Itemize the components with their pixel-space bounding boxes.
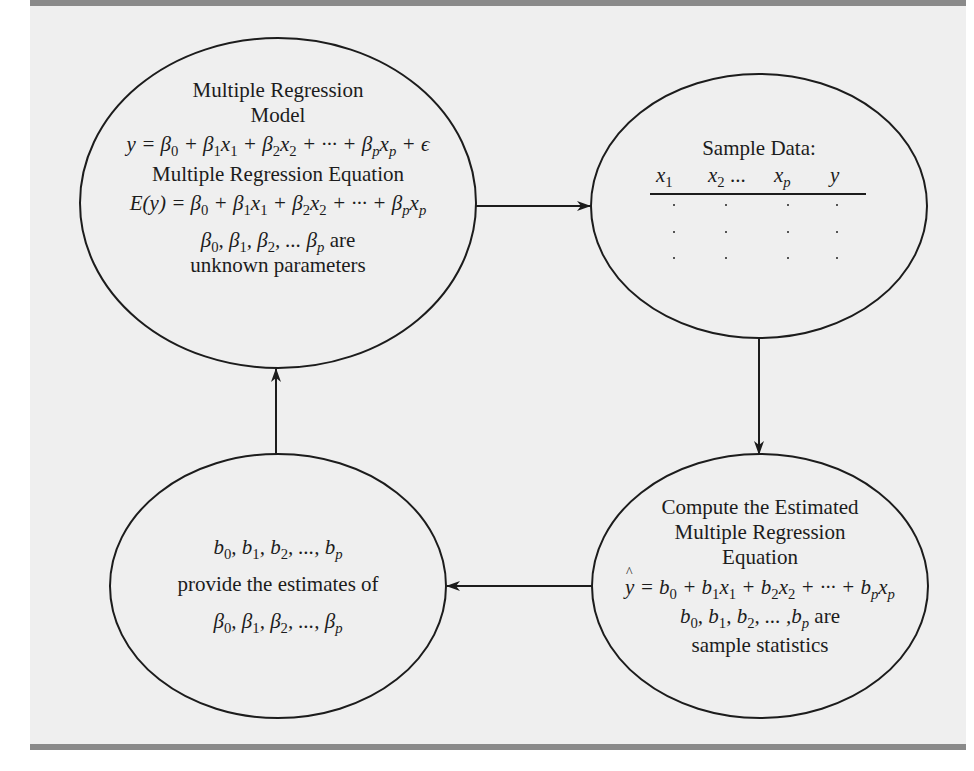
compute-title-line2: Multiple Regression bbox=[600, 520, 920, 545]
model-title-line2: Model bbox=[88, 103, 468, 128]
compute-title-line3: Equation bbox=[600, 545, 920, 570]
estimates-desc: provide the estimates of bbox=[128, 572, 428, 597]
estimated-equation: y = b0 + b1x1 + b2x2 + ··· + bpxp bbox=[600, 575, 920, 600]
estimates-node: b0, b1, b2, ..., bp provide the estimate… bbox=[128, 535, 428, 635]
model-params-desc: unknown parameters bbox=[88, 253, 468, 278]
sample-table-header: x1 x2 ... xp y bbox=[650, 163, 866, 191]
expected-value-equation: E(y) = β0 + β1x1 + β2x2 + ··· + βpxp bbox=[88, 191, 468, 216]
col-xp: xp bbox=[774, 163, 791, 188]
compute-node: Compute the Estimated Multiple Regressio… bbox=[600, 495, 920, 658]
col-y: y bbox=[830, 163, 839, 188]
compute-stats: b0, b1, b2, ... ,bp are bbox=[600, 604, 920, 629]
sample-data-table: x1 x2 ... xp y bbox=[650, 163, 866, 275]
model-params: β0, β1, β2, ... βp are bbox=[88, 228, 468, 253]
sample-title: Sample Data: bbox=[659, 136, 859, 161]
col-x1: x1 bbox=[656, 163, 673, 188]
model-title-line1: Multiple Regression bbox=[88, 78, 468, 103]
compute-title-line1: Compute the Estimated bbox=[600, 495, 920, 520]
model-equation: y = β0 + β1x1 + β2x2 + ··· + βpxp + ϵ bbox=[88, 132, 468, 157]
model-subtitle: Multiple Regression Equation bbox=[88, 162, 468, 187]
estimates-params: β0, β1, β2, ..., βp bbox=[128, 609, 428, 634]
compute-stats-desc: sample statistics bbox=[600, 633, 920, 658]
table-rows bbox=[650, 195, 866, 275]
col-x2: x2 ... bbox=[708, 163, 746, 188]
estimates-stats: b0, b1, b2, ..., bp bbox=[128, 535, 428, 560]
model-node: Multiple Regression Model y = β0 + β1x1 … bbox=[88, 78, 468, 278]
